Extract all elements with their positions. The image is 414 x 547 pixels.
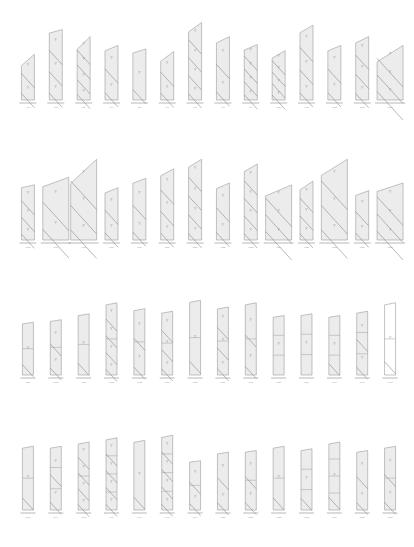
window-unit: ϒϒϒϒW9 — [242, 45, 259, 110]
window-unit: ϒW5 — [131, 49, 148, 109]
window-tag: W1 — [26, 106, 30, 109]
window-tag: W26 — [332, 246, 338, 249]
window-tag: W43 — [25, 516, 31, 519]
window-tag: W2 — [54, 106, 58, 109]
window-tag: W5 — [138, 106, 142, 109]
window-unit: ϒϒW18 — [103, 188, 120, 249]
window-unit: ϒϒϒϒW45 — [76, 442, 91, 519]
window-schedule-sheet: ϒϒW1ϒϒϒW2ϒϒϒϒW3ϒϒW4ϒW5ϒϒW6ϒϒϒϒW7ϒϒW8ϒϒϒϒ… — [0, 0, 414, 547]
window-tag: W50 — [220, 516, 226, 519]
window-unit: ϒϒW8 — [214, 37, 231, 109]
window-unit: ϒW54 — [327, 442, 342, 519]
window-unit: ϒW52 — [271, 446, 286, 519]
window-unit: ϒϒW4 — [103, 45, 120, 109]
window-tag: W36 — [220, 381, 226, 384]
window-unit: ϒϒW33 — [132, 309, 147, 384]
window-tag: W32 — [109, 381, 115, 384]
window-tag: W47 — [137, 516, 143, 519]
window-tag: W17 — [81, 246, 87, 249]
window-unit: ϒϒW37 — [243, 303, 258, 384]
window-unit: ϒϒϒW11 — [298, 25, 315, 109]
window-tag: W44 — [53, 516, 59, 519]
window-panel — [216, 183, 229, 240]
window-tag: W40 — [332, 381, 338, 384]
window-unit: ϒϒW19 — [131, 178, 148, 249]
window-unit: ϒW53 — [299, 449, 314, 519]
window-tag: W15 — [25, 246, 31, 249]
window-unit: ϒW47 — [132, 440, 147, 519]
window-unit: ϒW29 — [20, 322, 35, 384]
window-tag: W34 — [165, 381, 171, 384]
window-unit: ϒϒW12 — [326, 45, 343, 109]
window-unit: ϒϒW6 — [159, 52, 176, 109]
window-panel — [217, 452, 228, 510]
window-unit: ϒϒϒW24 — [264, 185, 294, 260]
elevation-row: ϒϒW1ϒϒϒW2ϒϒϒϒW3ϒϒW4ϒW5ϒϒW6ϒϒϒϒW7ϒϒW8ϒϒϒϒ… — [19, 23, 405, 121]
window-unit: ϒϒϒϒW48 — [160, 435, 175, 519]
window-panel — [357, 311, 368, 375]
window-unit: ϒϒϒϒW7 — [187, 23, 204, 109]
window-unit: ϒW40 — [327, 316, 342, 385]
window-unit: ϒϒϒW15 — [19, 185, 36, 249]
window-unit: ϒW38 — [271, 316, 286, 385]
window-tag: W56 — [388, 516, 394, 519]
window-unit: ϒϒϒϒW32 — [104, 303, 119, 384]
window-tag: W16 — [53, 246, 59, 249]
window-unit: ϒϒW50 — [215, 452, 230, 519]
window-unit: ϒϒW41 — [355, 311, 370, 384]
window-tag: W7 — [193, 106, 197, 109]
elevation-row: ϒW29ϒϒW30ϒW31ϒϒϒϒW32ϒϒW33ϒϒϒW34ϒW35ϒϒϒW3… — [20, 300, 397, 384]
window-unit: ϒϒϒW17 — [69, 159, 99, 258]
window-unit: ϒϒϒW2 — [47, 30, 64, 109]
window-tag: W12 — [332, 106, 338, 109]
window-tag: W53 — [304, 516, 310, 519]
window-unit: ϒϒϒϒW21 — [187, 159, 204, 249]
window-tag: W39 — [304, 381, 310, 384]
window-tag: W22 — [220, 246, 226, 249]
window-unit: ϒϒW22 — [214, 183, 231, 249]
window-unit: ϒϒϒW14 — [375, 45, 405, 120]
window-tag: W45 — [81, 516, 87, 519]
window-panel — [43, 177, 69, 240]
window-tag: W52 — [276, 516, 282, 519]
window-tag: W21 — [193, 246, 199, 249]
window-unit: ϒϒϒϒW46 — [104, 438, 119, 519]
window-tag: W10 — [276, 106, 282, 109]
window-panel — [357, 451, 368, 511]
window-panel — [50, 446, 61, 510]
window-unit: ϒϒϒW28 — [375, 183, 405, 260]
window-unit: ϒϒW49 — [188, 461, 203, 519]
window-panel — [328, 45, 341, 100]
window-panel — [356, 191, 369, 240]
elevation-row: ϒW43ϒϒW44ϒϒϒϒW45ϒϒϒϒW46ϒW47ϒϒϒϒW48ϒϒW49ϒ… — [20, 435, 397, 519]
window-unit: ϒϒϒW36 — [215, 307, 230, 384]
window-tag: W18 — [109, 246, 115, 249]
window-unit: ϒϒW56 — [383, 446, 398, 519]
window-tag: W35 — [193, 381, 199, 384]
window-tag: W8 — [221, 106, 225, 109]
window-tag: W41 — [360, 381, 366, 384]
window-tag: W27 — [360, 246, 366, 249]
window-panel — [21, 54, 34, 100]
window-unit: ϒϒW30 — [48, 320, 63, 384]
window-tag: W54 — [332, 516, 338, 519]
window-tag: W55 — [360, 516, 366, 519]
window-tag: W4 — [110, 106, 114, 109]
window-unit: ϒW35 — [188, 300, 203, 384]
window-unit: ϒϒϒϒW10 — [270, 51, 287, 110]
window-tag: W31 — [81, 381, 87, 384]
window-tag: W24 — [276, 246, 282, 249]
window-unit: ϒW42 — [383, 303, 398, 384]
window-tag: W33 — [137, 381, 143, 384]
window-panel — [161, 52, 174, 100]
window-tag: W30 — [53, 381, 59, 384]
window-tag: W49 — [193, 516, 199, 519]
window-unit: ϒϒϒW34 — [160, 311, 175, 384]
window-tag: W9 — [249, 106, 253, 109]
window-tag: W28 — [388, 246, 394, 249]
window-panel — [105, 188, 118, 240]
window-unit: ϒϒϒW26 — [319, 159, 349, 258]
window-panel — [133, 178, 146, 240]
window-tag: W3 — [82, 106, 86, 109]
window-tag: W23 — [248, 246, 254, 249]
